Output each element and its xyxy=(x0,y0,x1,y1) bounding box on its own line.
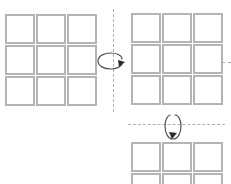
grid-cell xyxy=(5,14,35,44)
grid-cell xyxy=(36,14,66,44)
grid-cell xyxy=(131,142,161,172)
grid-cell xyxy=(193,173,223,184)
rotate-about-horizontal-axis-arrow xyxy=(161,110,183,142)
right-edge-axis-stub xyxy=(222,62,231,63)
grid-start xyxy=(5,14,97,106)
grid-cell xyxy=(162,142,192,172)
grid-cell xyxy=(67,76,97,106)
grid-cell xyxy=(5,76,35,106)
grid-cell xyxy=(193,75,223,105)
grid-cell xyxy=(131,173,161,184)
grid-cell xyxy=(193,13,223,43)
grid-cell xyxy=(5,45,35,75)
grid-cell xyxy=(131,44,161,74)
grid-cell xyxy=(162,173,192,184)
grid-cell xyxy=(131,75,161,105)
grid-cell xyxy=(131,13,161,43)
grid-cell xyxy=(36,45,66,75)
grid-cell xyxy=(193,44,223,74)
grid-cell xyxy=(162,44,192,74)
grid-cell xyxy=(162,75,192,105)
rotate-about-vertical-axis-arrow xyxy=(96,52,128,74)
grid-cell xyxy=(162,13,192,43)
grid-cell xyxy=(36,76,66,106)
grid-cell xyxy=(193,142,223,172)
grid-after-horizontal-rotation xyxy=(131,142,223,184)
grid-after-vertical-rotation xyxy=(131,13,223,105)
grid-cell xyxy=(67,14,97,44)
grid-cell xyxy=(67,45,97,75)
rotation-diagram-canvas xyxy=(0,0,231,184)
